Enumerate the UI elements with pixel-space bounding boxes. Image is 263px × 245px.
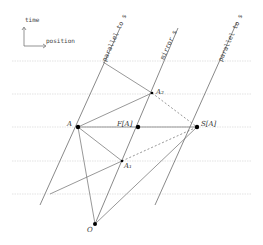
label-fa: F[A] — [116, 120, 133, 128]
right-line-label: parallel to s — [217, 13, 245, 63]
point-a — [76, 125, 80, 129]
left-line-label: parallel to s — [101, 13, 129, 63]
points — [76, 92, 199, 226]
label-sa: S[A] — [201, 120, 217, 128]
point-a1 — [121, 160, 124, 163]
point-fa — [136, 125, 140, 129]
diagram-svg: time position parallel to s mirror s par… — [0, 0, 263, 245]
point-sa — [195, 125, 199, 129]
point-o — [93, 222, 97, 226]
mirror-line-label: mirror s — [159, 29, 179, 61]
construction-lines — [50, 62, 197, 224]
label-a2: A₂ — [155, 88, 164, 96]
label-a: A — [66, 120, 72, 128]
position-axis-label: position — [46, 37, 75, 45]
time-axis-label: time — [25, 16, 40, 23]
label-a1: A₁ — [123, 162, 132, 170]
label-o: O — [87, 226, 93, 234]
spacetime-diagram: time position parallel to s mirror s par… — [0, 0, 263, 245]
point-a2 — [151, 92, 154, 95]
axes-icon — [22, 27, 46, 48]
